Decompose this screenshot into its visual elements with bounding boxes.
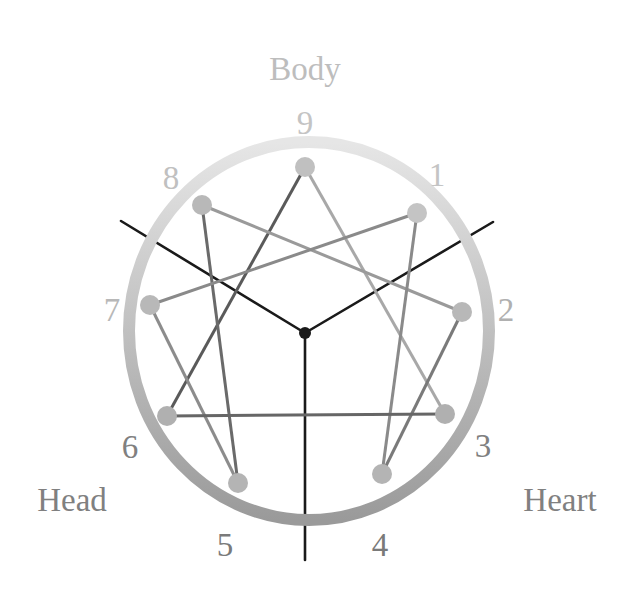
type-number-label-5: 5 [217, 527, 234, 563]
connection-line-9-3 [305, 167, 445, 414]
center-spokes [121, 221, 493, 560]
center-label-head: Head [37, 482, 107, 518]
type-number-label-8: 8 [163, 160, 180, 196]
type-point-3 [435, 404, 455, 424]
type-number-label-3: 3 [475, 428, 492, 464]
connection-line-1-4 [382, 213, 417, 474]
type-point-8 [192, 195, 212, 215]
center-label-body: Body [269, 51, 341, 87]
connection-line-6-3 [167, 414, 445, 416]
center-hub [299, 327, 311, 339]
type-point-9 [295, 157, 315, 177]
type-point-5 [228, 473, 248, 493]
enneagram-diagram: 123456789 BodyHeadHeart [0, 0, 634, 589]
type-number-label-1: 1 [429, 157, 446, 193]
type-point-7 [140, 295, 160, 315]
type-point-4 [372, 464, 392, 484]
center-label-heart: Heart [523, 482, 596, 518]
type-number-label-6: 6 [122, 429, 139, 465]
type-point-6 [157, 406, 177, 426]
connection-line-7-5 [150, 305, 238, 483]
type-point-1 [407, 203, 427, 223]
type-number-label-9: 9 [297, 105, 314, 141]
type-number-label-2: 2 [498, 292, 515, 328]
connection-line-8-2 [202, 205, 462, 312]
type-number-label-7: 7 [104, 292, 121, 328]
type-point-2 [452, 302, 472, 322]
type-number-label-4: 4 [372, 527, 389, 563]
